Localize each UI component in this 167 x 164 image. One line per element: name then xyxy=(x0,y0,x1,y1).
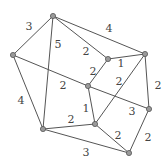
edge-weight-label: 2 xyxy=(90,65,97,78)
edge-weight-label: 2 xyxy=(115,129,122,142)
edge-E-G xyxy=(145,54,149,109)
node-D xyxy=(105,56,110,61)
edge-weight-label: 5 xyxy=(55,38,62,51)
edge-weight-label: 3 xyxy=(129,105,136,118)
nodes-layer xyxy=(10,13,151,155)
node-E xyxy=(142,51,147,56)
edge-weight-label: 3 xyxy=(83,146,90,159)
edge-weight-label: 2 xyxy=(68,113,75,126)
graph-diagram: 3524122223122234 xyxy=(0,0,167,164)
node-C xyxy=(40,126,45,131)
node-B xyxy=(10,52,15,57)
node-A xyxy=(50,13,55,18)
edge-weight-label: 3 xyxy=(26,20,33,33)
edge-F-G xyxy=(88,86,149,109)
edge-weight-label: 4 xyxy=(106,22,113,35)
edge-labels-layer: 3524122223122234 xyxy=(18,20,162,159)
edge-D-E xyxy=(108,54,145,59)
edge-weight-label: 2 xyxy=(145,131,152,144)
edge-weight-label: 4 xyxy=(18,94,25,107)
edge-A-C xyxy=(43,16,53,129)
edge-weight-label: 2 xyxy=(155,79,162,92)
edge-weight-label: 1 xyxy=(118,57,125,70)
node-I xyxy=(126,150,131,155)
edge-A-B xyxy=(13,16,53,55)
edge-weight-label: 2 xyxy=(116,75,123,88)
node-F xyxy=(85,83,90,88)
edges-layer xyxy=(13,16,149,153)
edge-weight-label: 1 xyxy=(83,102,90,115)
edge-A-E xyxy=(53,16,145,54)
edge-weight-label: 2 xyxy=(83,45,90,58)
edge-B-F xyxy=(13,55,88,86)
node-G xyxy=(146,106,151,111)
edge-B-C xyxy=(13,55,43,129)
edge-weight-label: 2 xyxy=(60,79,67,92)
node-H xyxy=(92,121,97,126)
